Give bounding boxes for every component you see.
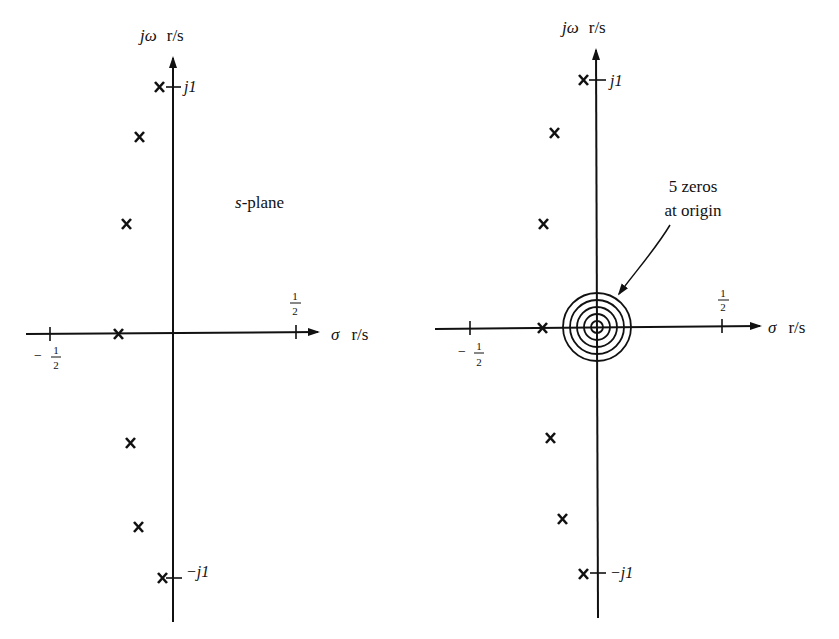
annotation-arrow: [619, 225, 670, 294]
svg-text:2: 2: [53, 359, 59, 371]
svg-text:2: 2: [720, 301, 726, 313]
real-axis: [26, 332, 318, 334]
pole-marker: [550, 128, 559, 138]
svg-text:1: 1: [476, 340, 482, 352]
tick-label-j1: j1: [608, 72, 622, 90]
x-axis-label: σr/s: [331, 325, 368, 344]
pole-marker: [558, 514, 567, 524]
zeros-annotation: 5 zeros at origin: [619, 177, 722, 294]
tick-label-neg-j1: −j1: [186, 563, 209, 581]
right-s-plane-plot: jωr/s σr/s j1 −j1 1 2 − 1 2 5 zeros at o…: [435, 18, 805, 618]
y-axis-label: jωr/s: [138, 26, 184, 45]
svg-text:2: 2: [476, 356, 482, 368]
pole-marker: [155, 82, 164, 92]
x-axis-label: σr/s: [768, 318, 805, 337]
svg-text:−: −: [34, 348, 42, 363]
pole-marker: [579, 75, 588, 85]
left-s-plane-plot: jωr/s σr/s j1 −j1 1 2 − 1 2 s-plane: [26, 26, 368, 622]
tick-label-pos-half: 1 2: [718, 287, 729, 313]
pole-marker: [135, 132, 144, 142]
pole-marker: [539, 219, 548, 229]
svg-text:1: 1: [292, 290, 298, 302]
svg-text:−: −: [458, 344, 466, 359]
s-plane-label: s-plane: [235, 193, 284, 212]
tick-label-j1: j1: [182, 78, 196, 96]
imaginary-axis: [596, 50, 598, 618]
svg-text:5 zeros: 5 zeros: [669, 177, 718, 196]
svg-text:1: 1: [720, 287, 726, 299]
tick-label-neg-half: − 1 2: [34, 344, 61, 371]
tick-label-pos-half: 1 2: [290, 290, 301, 317]
pole-marker: [546, 433, 555, 443]
pole-marker: [134, 522, 143, 532]
svg-text:2: 2: [292, 305, 298, 317]
pole-marker: [126, 438, 135, 448]
pole-marker: [122, 219, 131, 229]
svg-text:1: 1: [53, 344, 59, 356]
tick-label-neg-j1: −j1: [610, 564, 633, 582]
pole-zero-figure: jωr/s σr/s j1 −j1 1 2 − 1 2 s-plane: [0, 0, 839, 639]
svg-text:at origin: at origin: [664, 201, 722, 220]
pole-marker: [158, 573, 167, 583]
y-axis-label: jωr/s: [560, 18, 606, 37]
pole-marker: [579, 569, 588, 579]
tick-label-neg-half: − 1 2: [458, 340, 484, 368]
